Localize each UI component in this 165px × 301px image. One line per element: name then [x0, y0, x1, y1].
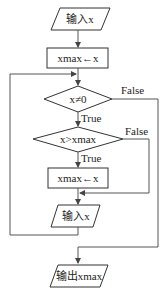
xmax-assign-node: xmax←x: [48, 168, 108, 188]
output-xmax-node: 输出xmax: [50, 265, 108, 287]
cond2-false-label: False: [125, 125, 148, 137]
svg-text:输入x: 输入x: [62, 209, 90, 222]
svg-text:输出xmax: 输出xmax: [56, 269, 103, 282]
cond2-true-label: True: [81, 152, 101, 164]
input-x-node-top: 输入x: [51, 8, 110, 30]
svg-text:xmax←x: xmax←x: [58, 172, 99, 184]
svg-text:x≠0: x≠0: [69, 93, 87, 105]
svg-text:xmax←x: xmax←x: [58, 52, 99, 64]
input-x-node-loop: 输入x: [51, 205, 100, 227]
cond1-false-label: False: [121, 84, 144, 96]
condition-x-not-zero: x≠0: [44, 86, 112, 112]
flowchart: 输入x xmax←x x≠0 False True x>xmax False T…: [0, 0, 165, 301]
svg-text:x>xmax: x>xmax: [60, 133, 97, 145]
xmax-init-node: xmax←x: [47, 48, 108, 68]
svg-text:输入x: 输入x: [66, 12, 94, 25]
cond1-true-label: True: [81, 112, 101, 124]
condition-x-gt-xmax: x>xmax: [33, 127, 123, 152]
